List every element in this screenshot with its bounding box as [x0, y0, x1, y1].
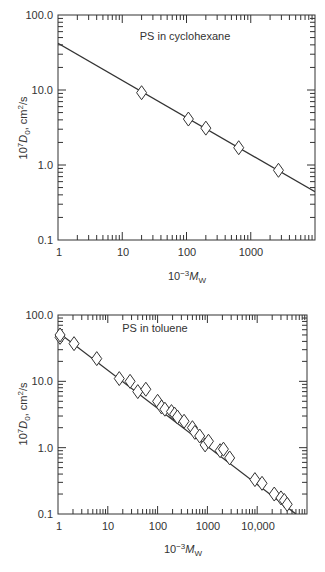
figure: 100.0 10.0 1.0 0.1 1 10 100 1000 PS in c…	[0, 0, 325, 572]
data-point-diamond	[137, 86, 147, 100]
y-tick-label: 10.0	[32, 84, 53, 96]
x-tick-label: 1000	[196, 520, 220, 532]
y-axis-label: 107D0, cm2/s	[16, 96, 32, 159]
x-axis-label: 10−3MW	[168, 269, 207, 285]
y-axis-label: 107D0, cm2/s	[16, 382, 32, 445]
data-point-diamond	[114, 372, 124, 386]
y-tick-label: 100.0	[25, 9, 53, 21]
tick-marks	[58, 315, 307, 514]
data-point-diamond	[201, 121, 211, 135]
plot-frame	[58, 15, 315, 240]
data-point-diamond	[234, 141, 244, 155]
y-tick-label: 10.0	[32, 375, 53, 387]
data-point-diamond	[125, 374, 135, 388]
data-point-diamond	[141, 382, 151, 396]
x-tick-label: 100	[149, 520, 167, 532]
x-tick-label: 10,000	[241, 520, 275, 532]
data-point-diamond	[92, 352, 102, 366]
x-tick-label: 1	[56, 520, 62, 532]
chart-title: PS in cyclohexane	[140, 30, 231, 42]
x-tick-labels: 1 10 100 1000	[56, 246, 263, 258]
data-point-diamond	[273, 163, 283, 177]
data-point-diamond	[183, 112, 193, 126]
chart-toluene: 100.0 10.0 1.0 0.1 1 10 100 1000 10,000 …	[16, 309, 307, 558]
x-tick-label: 100	[178, 246, 196, 258]
chart-title: PS in toluene	[122, 322, 187, 334]
chart-cyclohexane: 100.0 10.0 1.0 0.1 1 10 100 1000 PS in c…	[16, 9, 315, 285]
plot-frame	[58, 315, 307, 514]
y-tick-label: 1.0	[38, 159, 53, 171]
data-point-diamond	[69, 337, 79, 351]
y-tick-label: 100.0	[25, 309, 53, 321]
data-series	[55, 328, 296, 514]
y-tick-label: 0.1	[38, 234, 53, 246]
x-tick-label: 10	[102, 520, 114, 532]
y-tick-label: 1.0	[38, 442, 53, 454]
x-tick-labels: 1 10 100 1000 10,000	[56, 520, 275, 532]
data-series	[58, 43, 315, 191]
y-tick-label: 0.1	[38, 508, 53, 520]
tick-marks	[58, 15, 315, 240]
x-tick-label: 1000	[239, 246, 263, 258]
x-axis-label: 10−3MW	[164, 542, 203, 558]
y-tick-labels: 100.0 10.0 1.0 0.1	[25, 9, 53, 246]
y-tick-labels: 100.0 10.0 1.0 0.1	[25, 309, 53, 520]
x-tick-label: 1	[56, 246, 62, 258]
x-tick-label: 10	[117, 246, 129, 258]
